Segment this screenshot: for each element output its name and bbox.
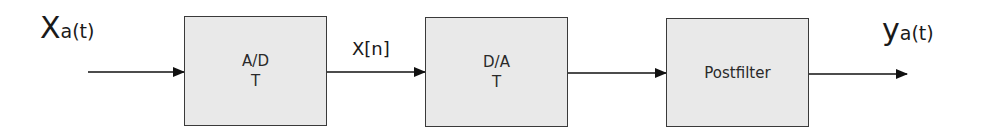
ad-block-label: A/D (242, 51, 269, 71)
input-signal-sub: a(t) (61, 20, 95, 42)
output-signal-main: y (882, 12, 900, 47)
postfilter-block-label: Postfilter (704, 63, 770, 83)
output-signal-label: ya(t) (882, 12, 934, 47)
input-signal-main: X (40, 10, 61, 45)
da-block-period: T (492, 72, 501, 92)
da-block-label: D/A (483, 52, 510, 72)
ad-block-period: T (251, 71, 260, 91)
intermediate-signal-label: X[n] (352, 38, 390, 59)
input-signal-label: Xa(t) (40, 10, 94, 45)
output-signal-sub: a(t) (900, 22, 934, 44)
postfilter-block: Postfilter (666, 18, 809, 127)
ad-converter-block: A/D T (184, 16, 327, 126)
da-converter-block: D/A T (425, 17, 568, 127)
